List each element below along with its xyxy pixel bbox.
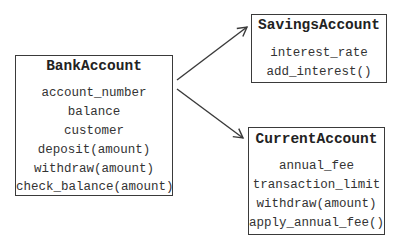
class-member: account_number	[16, 86, 172, 100]
class-member: add_interest()	[252, 65, 386, 79]
class-member: interest_rate	[252, 46, 386, 60]
class-title: SavingsAccount	[252, 17, 386, 33]
class-box-bankaccount: BankAccount account_number balance custo…	[15, 55, 173, 196]
class-member: withdraw(amount)	[249, 197, 384, 211]
arrow-to-currentaccount	[177, 89, 243, 138]
class-box-currentaccount: CurrentAccount annual_fee transaction_li…	[248, 127, 385, 235]
class-member: transaction_limit	[249, 178, 384, 192]
arrow-to-savingsaccount	[177, 27, 247, 80]
class-member: customer	[16, 124, 172, 138]
class-member: withdraw(amount)	[16, 162, 172, 176]
class-member: balance	[16, 105, 172, 119]
class-title: CurrentAccount	[249, 131, 384, 147]
class-member: check_balance(amount)	[16, 180, 172, 194]
class-member: apply_annual_fee()	[249, 216, 384, 230]
class-member: deposit(amount)	[16, 143, 172, 157]
class-member: annual_fee	[249, 159, 384, 173]
class-title: BankAccount	[16, 58, 172, 74]
class-box-savingsaccount: SavingsAccount interest_rate add_interes…	[251, 14, 387, 83]
